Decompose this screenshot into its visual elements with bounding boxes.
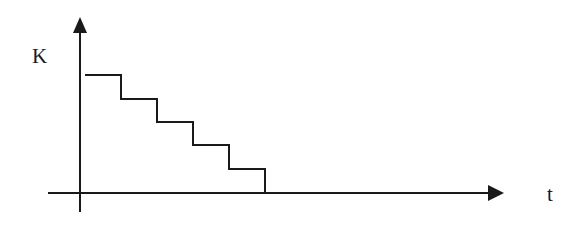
x-axis-label: t [547, 184, 553, 205]
step-chart [0, 0, 579, 230]
x-axis-arrow-icon [488, 185, 504, 201]
y-axis-arrow-icon [73, 17, 87, 33]
y-axis-label: K [32, 46, 47, 67]
step-series [85, 75, 265, 193]
